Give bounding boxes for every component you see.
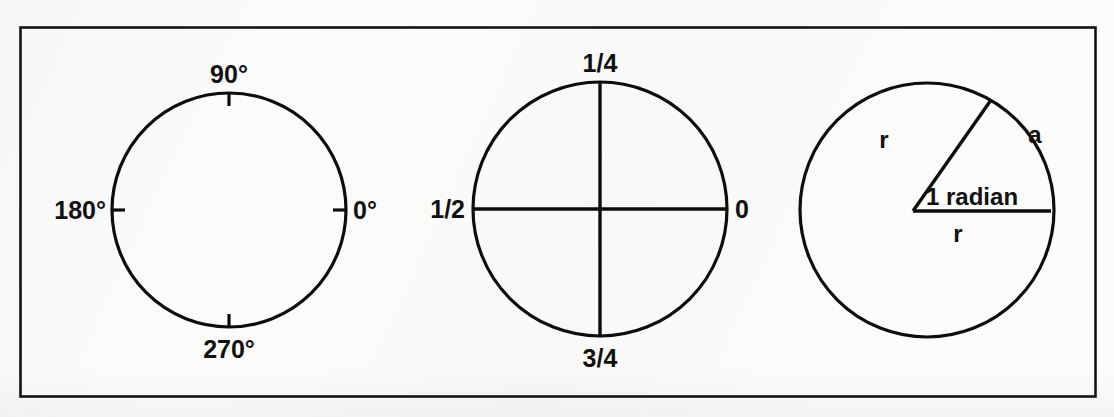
degree-circle-panel: 90° 0° 270° 180° — [54, 60, 377, 363]
figure-container: 90° 0° 270° 180° 1/4 0 3/4 1/2 r r a — [0, 0, 1114, 417]
label-180-degrees: 180° — [54, 196, 106, 224]
label-arc-a: a — [1028, 121, 1042, 148]
label-0-degrees: 0° — [353, 196, 377, 224]
label-upper-radius: r — [879, 126, 888, 153]
label-three-quarter-revolution: 3/4 — [583, 344, 618, 372]
label-lower-radius: r — [953, 220, 962, 247]
label-quarter-revolution: 1/4 — [583, 49, 618, 77]
radian-circle-panel: r r a 1 radian — [800, 83, 1054, 337]
degree-circle-outline — [112, 93, 346, 327]
circles-diagram: 90° 0° 270° 180° 1/4 0 3/4 1/2 r r a — [0, 0, 1114, 417]
revolution-circle-panel: 1/4 0 3/4 1/2 — [430, 49, 749, 372]
label-zero-revolution: 0 — [735, 195, 749, 223]
label-90-degrees: 90° — [210, 60, 248, 88]
label-270-degrees: 270° — [203, 335, 255, 363]
label-half-revolution: 1/2 — [430, 195, 465, 223]
label-one-radian: 1 radian — [926, 183, 1018, 210]
